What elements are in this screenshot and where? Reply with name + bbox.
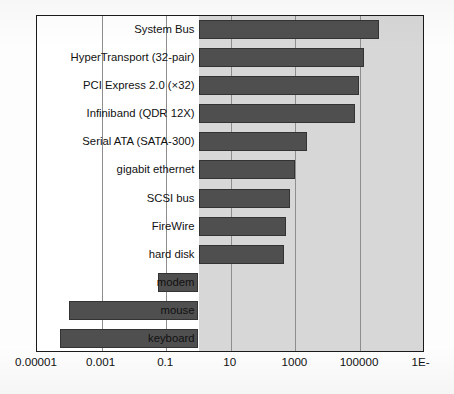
x-tick-label: 0.00001 <box>15 355 57 368</box>
bar-row: Infiniband (QDR 12X) <box>37 101 423 129</box>
x-tick-label: 100000 <box>340 355 379 368</box>
bar-row: Serial ATA (SATA-300) <box>37 129 423 157</box>
bar-row: SCSI bus <box>37 186 423 214</box>
x-tick-label: 10 <box>223 355 236 368</box>
bar-row: mouse <box>37 298 423 326</box>
bar <box>199 48 364 67</box>
bar-row: HyperTransport (32-pair) <box>37 45 423 73</box>
bar-row: System Bus <box>37 17 423 45</box>
bar-row: PCI Express 2.0 (×32) <box>37 73 423 101</box>
bar-category-label: Serial ATA (SATA-300) <box>82 132 194 151</box>
bar-category-label: FireWire <box>152 217 195 236</box>
bar-row: keyboard <box>37 326 423 352</box>
bandwidth-bar-chart-figure: System BusHyperTransport (32-pair)PCI Ex… <box>0 0 454 394</box>
bar <box>199 20 380 39</box>
bar-category-label: Infiniband (QDR 12X) <box>87 104 195 123</box>
plot-area: System BusHyperTransport (32-pair)PCI Ex… <box>36 15 424 352</box>
bar <box>199 245 284 264</box>
bar-category-label: gigabit ethernet <box>117 160 195 179</box>
bar-category-label: SCSI bus <box>147 189 195 208</box>
bar <box>199 189 291 208</box>
bar-row: FireWire <box>37 214 423 242</box>
bar-category-label: PCI Express 2.0 (×32) <box>83 76 194 95</box>
x-axis-tick-labels: 0.000010.0010.11010001000001E- <box>0 355 454 375</box>
bar-category-label: hard disk <box>149 245 195 264</box>
bar-category-label: mouse <box>161 301 195 320</box>
bar <box>199 217 286 236</box>
bar-category-label: keyboard <box>148 329 194 348</box>
x-tick-label: 1E- <box>412 355 430 368</box>
bar-category-label: System Bus <box>134 20 194 39</box>
bar <box>199 104 356 123</box>
x-tick-label: 0.1 <box>157 355 173 368</box>
bar-row: gigabit ethernet <box>37 157 423 185</box>
bar-row: modem <box>37 270 423 298</box>
bar-row: hard disk <box>37 242 423 270</box>
bar-category-label: HyperTransport (32-pair) <box>71 48 195 67</box>
bar <box>199 132 307 151</box>
x-tick-label: 1000 <box>281 355 307 368</box>
bar <box>199 76 360 95</box>
bar-series: System BusHyperTransport (32-pair)PCI Ex… <box>37 16 423 351</box>
bar <box>199 160 296 179</box>
bar-category-label: modem <box>157 273 195 292</box>
x-tick-label: 0.001 <box>86 355 115 368</box>
